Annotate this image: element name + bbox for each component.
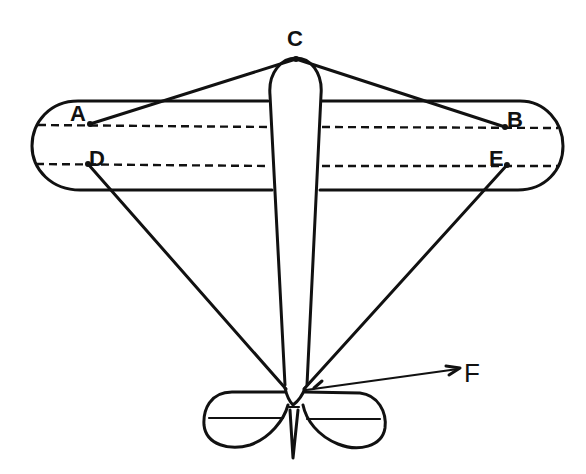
label-F: F	[464, 358, 480, 388]
fuselage	[270, 58, 321, 385]
wire-CA	[90, 59, 296, 124]
wing	[32, 101, 563, 190]
wire-E-tail	[304, 165, 507, 389]
force-arrow-F	[306, 366, 460, 390]
label-E: E	[489, 146, 504, 171]
wire-D-tail	[88, 164, 286, 389]
anchor-points	[85, 56, 510, 168]
label-A: A	[70, 101, 86, 126]
bracing-wires	[88, 59, 507, 389]
point-C	[293, 56, 299, 62]
label-C: C	[287, 26, 303, 51]
point-A	[87, 121, 93, 127]
aircraft-diagram: C A B D E F	[0, 0, 586, 474]
wire-CB	[296, 59, 505, 127]
label-B: B	[507, 107, 523, 132]
label-D: D	[89, 146, 105, 171]
point-E	[504, 162, 510, 168]
rear-spar-left	[36, 164, 268, 166]
tailplane	[204, 388, 385, 458]
